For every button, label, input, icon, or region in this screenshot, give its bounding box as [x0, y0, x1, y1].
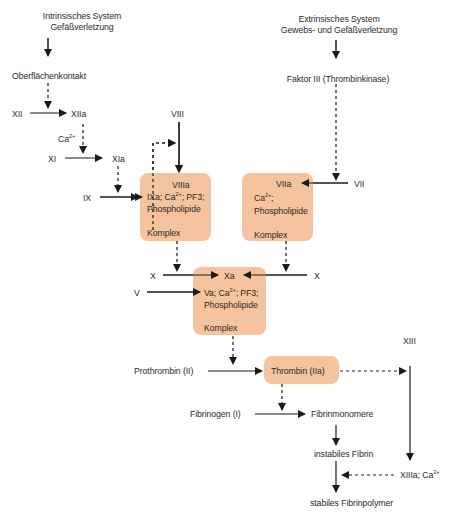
- factor-xia-label: XIa: [112, 153, 125, 164]
- factor-x-right-label: X: [314, 270, 320, 281]
- box1-line1: IXa; Ca2+; PF3;: [147, 191, 204, 202]
- factor-vii-label: VII: [354, 178, 364, 189]
- box1-line2: Phospholipide: [147, 203, 201, 214]
- extrinsic-title: Extrinsisches System Gewebs- und Gefäßve…: [281, 13, 398, 35]
- factor-xiiia-label: XIIIa; Ca2+: [400, 469, 439, 480]
- factor-xii-label: XII: [12, 108, 22, 119]
- extrinsic-title-line2: Gewebs- und Gefäßverletzung: [281, 24, 398, 35]
- factor-v-label: V: [134, 287, 140, 298]
- calcium-label: Ca2+: [58, 133, 75, 144]
- prothrombin-label: Prothrombin (II): [134, 365, 193, 376]
- box3-footer: Komplex: [204, 322, 237, 333]
- intrinsic-title-line1: Intrinsisches System: [43, 10, 121, 21]
- factor-xi-label: XI: [48, 153, 56, 164]
- box3-head: Xa: [224, 270, 235, 281]
- box2-line2: Phospholipide: [254, 205, 308, 216]
- intrinsic-title: Intrinsisches System Gefäßverletzung: [43, 10, 121, 32]
- instabiles-fibrin-label: instabiles Fibrin: [314, 448, 373, 459]
- factor-xiia-label: XIIa: [71, 108, 86, 119]
- box3-line1: Va; Ca2+; PF3;: [204, 287, 258, 298]
- factor-x-left-label: X: [150, 270, 156, 281]
- intrinsic-title-line2: Gefäßverletzung: [43, 21, 121, 32]
- extrinsic-title-line1: Extrinsisches System: [281, 13, 398, 24]
- box2-footer: Komplex: [254, 229, 287, 240]
- box1-footer: Komplex: [147, 227, 180, 238]
- fibrinmonomere-label: Fibrinmonomere: [311, 408, 373, 419]
- box2-head: VIIa: [276, 178, 291, 189]
- fibrinogen-label: Fibrinogen (I): [190, 408, 241, 419]
- box2-line1: Ca2+;: [254, 192, 273, 203]
- stabiles-fibrinpolymer-label: stabiles Fibrinpolymer: [310, 497, 393, 508]
- factor-viii-label: VIII: [171, 108, 184, 119]
- box3-line2: Phospholipide: [204, 299, 258, 310]
- box1-head: VIIIa: [172, 179, 190, 190]
- factor-iii-label: Faktor III (Thrombinkinase): [287, 73, 389, 84]
- surface-contact-label: Oberflächenkontakt: [12, 70, 86, 81]
- factor-ix-label: IX: [83, 192, 91, 203]
- thrombin-label: Thrombin (IIa): [271, 365, 325, 376]
- factor-xiii-label: XIII: [403, 335, 416, 346]
